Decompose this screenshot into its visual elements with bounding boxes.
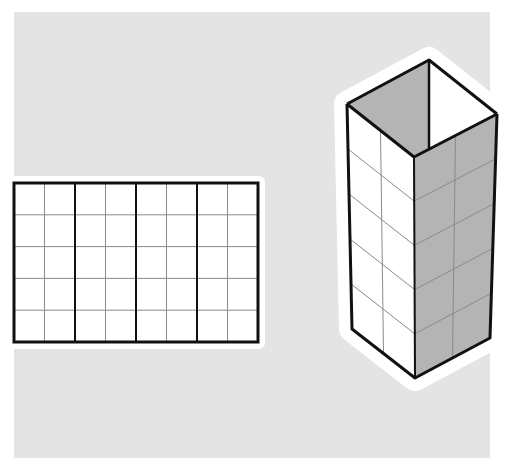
box-front-edge bbox=[414, 157, 415, 378]
figure-canvas bbox=[0, 0, 508, 470]
box-net bbox=[7, 176, 265, 349]
open-box-3d bbox=[347, 60, 497, 378]
